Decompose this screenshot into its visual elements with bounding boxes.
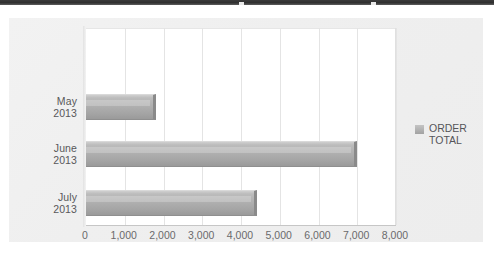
bar-highlight: [86, 196, 251, 202]
category-label-month: June: [17, 142, 77, 154]
value-axis-tick-label: 8,000: [382, 229, 408, 242]
value-axis-tick-label: 2,000: [149, 229, 175, 242]
value-axis-tick-label: 6,000: [304, 229, 330, 242]
gridline: [357, 28, 358, 225]
value-axis-tick-label: 1,000: [111, 229, 137, 242]
value-axis-labels: 01,0002,0003,0004,0005,0006,0007,0008,00…: [85, 229, 395, 243]
bar-fill: [86, 94, 156, 120]
top-edge-strip: [0, 0, 494, 5]
category-label: May2013: [17, 95, 77, 119]
bar-fill: [86, 190, 257, 216]
category-label-month: July: [17, 191, 77, 203]
gridline: [396, 28, 397, 225]
bar-highlight: [86, 147, 351, 153]
legend-label-order-total: ORDER TOTAL: [429, 122, 467, 146]
category-label: June2013: [17, 142, 77, 166]
chart-legend: ORDER TOTAL: [415, 122, 467, 146]
value-axis-tick-label: 3,000: [188, 229, 214, 242]
bar-fill: [86, 141, 357, 167]
gridline: [319, 28, 320, 225]
value-axis-tick-label: 7,000: [343, 229, 369, 242]
bar-highlight: [86, 100, 150, 106]
value-axis-tick-label: 0: [82, 229, 88, 242]
value-axis-tick-label: 4,000: [227, 229, 253, 242]
top-strip-notch: [371, 2, 376, 5]
category-label-year: 2013: [17, 203, 77, 215]
top-strip-notch: [239, 2, 244, 5]
value-axis-tick-label: 5,000: [266, 229, 292, 242]
legend-swatch-order-total: [415, 125, 424, 134]
category-label: July2013: [17, 191, 77, 215]
category-label-year: 2013: [17, 154, 77, 166]
gridline: [280, 28, 281, 225]
category-label-month: May: [17, 95, 77, 107]
category-label-year: 2013: [17, 107, 77, 119]
plot-area: [85, 28, 396, 226]
chart-panel: May2013June2013July2013 01,0002,0003,000…: [9, 18, 483, 242]
